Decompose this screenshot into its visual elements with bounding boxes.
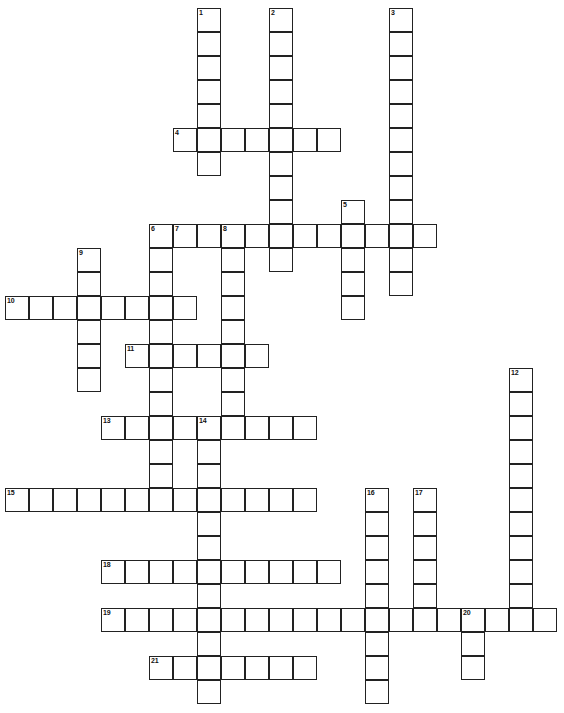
crossword-cell[interactable] [29,296,53,320]
crossword-cell[interactable] [197,608,221,632]
crossword-cell[interactable] [173,608,197,632]
crossword-cell[interactable] [389,104,413,128]
crossword-cell[interactable] [293,656,317,680]
crossword-cell[interactable] [293,608,317,632]
crossword-cell[interactable] [221,368,245,392]
crossword-cell[interactable] [245,560,269,584]
crossword-cell[interactable] [509,608,533,632]
crossword-cell[interactable] [461,632,485,656]
crossword-cell[interactable] [389,272,413,296]
crossword-cell[interactable] [125,608,149,632]
crossword-cell[interactable] [389,176,413,200]
crossword-cell-numbered[interactable]: 5 [341,200,365,224]
crossword-cell[interactable] [77,344,101,368]
crossword-cell[interactable] [77,296,101,320]
crossword-cell[interactable] [365,632,389,656]
crossword-cell[interactable] [365,536,389,560]
crossword-cell[interactable] [269,32,293,56]
crossword-cell[interactable] [149,344,173,368]
crossword-cell-numbered[interactable]: 20 [461,608,485,632]
crossword-cell[interactable] [341,608,365,632]
crossword-cell-numbered[interactable]: 19 [101,608,125,632]
crossword-cell[interactable] [173,488,197,512]
crossword-cell[interactable] [197,104,221,128]
crossword-cell[interactable] [149,320,173,344]
crossword-cell[interactable] [509,392,533,416]
crossword-cell[interactable] [221,392,245,416]
crossword-cell[interactable] [173,296,197,320]
crossword-cell[interactable] [365,656,389,680]
crossword-cell[interactable] [269,488,293,512]
crossword-cell[interactable] [221,416,245,440]
crossword-cell[interactable] [197,224,221,248]
crossword-cell-numbered[interactable]: 16 [365,488,389,512]
crossword-cell[interactable] [365,224,389,248]
crossword-cell[interactable] [29,488,53,512]
crossword-cell[interactable] [149,248,173,272]
crossword-cell-numbered[interactable]: 7 [173,224,197,248]
crossword-cell[interactable] [221,344,245,368]
crossword-cell[interactable] [197,536,221,560]
crossword-cell[interactable] [197,80,221,104]
crossword-cell[interactable] [461,656,485,680]
crossword-cell[interactable] [365,584,389,608]
crossword-cell-numbered[interactable]: 2 [269,8,293,32]
crossword-cell[interactable] [389,32,413,56]
crossword-cell-numbered[interactable]: 8 [221,224,245,248]
crossword-cell[interactable] [77,272,101,296]
crossword-cell[interactable] [485,608,509,632]
crossword-cell[interactable] [509,584,533,608]
crossword-cell[interactable] [269,656,293,680]
crossword-cell[interactable] [197,656,221,680]
crossword-cell-numbered[interactable]: 21 [149,656,173,680]
crossword-cell[interactable] [197,680,221,704]
crossword-cell-numbered[interactable]: 11 [125,344,149,368]
crossword-cell[interactable] [221,560,245,584]
crossword-cell[interactable] [293,560,317,584]
crossword-cell-numbered[interactable]: 12 [509,368,533,392]
crossword-cell[interactable] [245,344,269,368]
crossword-cell[interactable] [221,608,245,632]
crossword-cell[interactable] [293,488,317,512]
crossword-cell[interactable] [413,560,437,584]
crossword-cell[interactable] [317,608,341,632]
crossword-cell[interactable] [509,416,533,440]
crossword-cell-numbered[interactable]: 13 [101,416,125,440]
crossword-cell[interactable] [149,488,173,512]
crossword-cell[interactable] [149,464,173,488]
crossword-cell[interactable] [389,80,413,104]
crossword-cell[interactable] [77,488,101,512]
crossword-cell-numbered[interactable]: 3 [389,8,413,32]
crossword-cell[interactable] [149,608,173,632]
crossword-cell[interactable] [389,56,413,80]
crossword-cell[interactable] [365,560,389,584]
crossword-cell[interactable] [437,608,461,632]
crossword-cell[interactable] [389,248,413,272]
crossword-cell[interactable] [221,248,245,272]
crossword-cell[interactable] [197,152,221,176]
crossword-cell[interactable] [197,56,221,80]
crossword-cell[interactable] [197,488,221,512]
crossword-cell[interactable] [53,488,77,512]
crossword-cell[interactable] [293,224,317,248]
crossword-cell[interactable] [197,32,221,56]
crossword-cell[interactable] [149,368,173,392]
crossword-cell[interactable] [269,80,293,104]
crossword-cell[interactable] [269,560,293,584]
crossword-cell[interactable] [509,560,533,584]
crossword-cell[interactable] [413,512,437,536]
crossword-cell[interactable] [245,224,269,248]
crossword-cell[interactable] [149,272,173,296]
crossword-cell[interactable] [341,248,365,272]
crossword-cell[interactable] [77,368,101,392]
crossword-cell[interactable] [173,344,197,368]
crossword-cell[interactable] [413,536,437,560]
crossword-cell[interactable] [317,128,341,152]
crossword-cell[interactable] [101,296,125,320]
crossword-cell[interactable] [269,176,293,200]
crossword-cell[interactable] [293,416,317,440]
crossword-cell[interactable] [197,128,221,152]
crossword-cell[interactable] [245,608,269,632]
crossword-cell[interactable] [317,560,341,584]
crossword-cell[interactable] [197,440,221,464]
